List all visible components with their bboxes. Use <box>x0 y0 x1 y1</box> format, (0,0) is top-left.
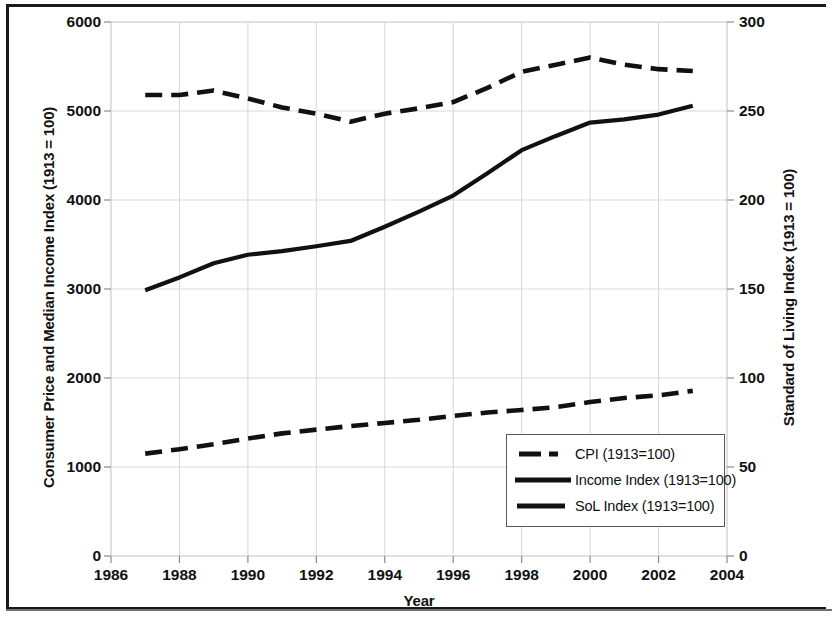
y-axis-right-tick-label: 150 <box>739 280 765 298</box>
legend-item: Income Index (1913=100) <box>515 467 716 493</box>
x-axis-tick-label: 1988 <box>162 566 196 584</box>
y-axis-left-title: Consumer Price and Median Income Index (… <box>40 38 57 558</box>
x-axis-tick-label: 2004 <box>710 566 744 584</box>
y-axis-left-tick-label: 6000 <box>67 13 101 31</box>
chart-legend: CPI (1913=100)Income Index (1913=100)SoL… <box>506 434 725 527</box>
data-series-layer <box>145 58 693 454</box>
y-axis-left-tick-label: 2000 <box>67 369 101 387</box>
x-axis-tick-label: 1990 <box>231 566 265 584</box>
x-axis-tick-label: 1992 <box>299 566 333 584</box>
x-axis-title: Year <box>111 592 727 609</box>
legend-item-label: Income Index (1913=100) <box>575 472 736 488</box>
y-axis-left-tick-label: 0 <box>92 547 101 565</box>
legend-item-label: SoL Index (1913=100) <box>575 498 714 514</box>
x-axis-tick-label: 2000 <box>573 566 607 584</box>
y-axis-right-tick-label: 250 <box>739 102 765 120</box>
x-axis-tick-label: 2002 <box>641 566 675 584</box>
y-axis-left-tick-label: 5000 <box>67 102 101 120</box>
chart-figure: Consumer Price and Median Income Index (… <box>0 0 832 618</box>
series-line-2 <box>145 106 693 291</box>
x-axis-tick-label: 1996 <box>436 566 470 584</box>
y-axis-left-tick-label: 1000 <box>67 458 101 476</box>
y-axis-right-title: Standard of Living Index (1913 = 100) <box>780 38 797 558</box>
y-axis-right-tick-label: 100 <box>739 369 765 387</box>
y-axis-left-tick-label: 4000 <box>67 191 101 209</box>
legend-item: CPI (1913=100) <box>515 441 716 467</box>
series-line-3 <box>145 58 693 122</box>
x-axis-tick-label: 1998 <box>504 566 538 584</box>
y-axis-left-tick-label: 3000 <box>67 280 101 298</box>
legend-item-label: CPI (1913=100) <box>575 446 675 462</box>
y-axis-right-tick-label: 0 <box>739 547 748 565</box>
legend-item: SoL Index (1913=100) <box>515 493 716 519</box>
x-axis-tick-label: 1994 <box>368 566 402 584</box>
y-axis-right-tick-label: 200 <box>739 191 765 209</box>
y-axis-right-tick-label: 50 <box>739 458 756 476</box>
y-axis-right-tick-label: 300 <box>739 13 765 31</box>
x-axis-tick-label: 1986 <box>94 566 128 584</box>
legend-line-swatch-solid <box>515 473 571 487</box>
legend-line-swatch-dashed <box>515 447 571 461</box>
legend-line-swatch-solid-short <box>515 499 571 513</box>
